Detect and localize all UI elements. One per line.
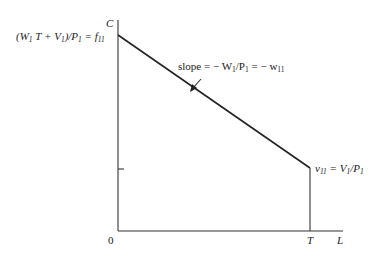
y-axis-label: C	[106, 17, 114, 29]
slope-label: slope = − W1/P1 = − w11	[178, 60, 285, 74]
endpoint-label: v11 = V1/P1	[315, 162, 364, 176]
x-tick-label-T: T	[307, 234, 314, 246]
origin-label: 0	[108, 234, 114, 246]
intercept-label: (W1 T + V1)/P1 = f11	[16, 30, 105, 44]
budget-line	[118, 35, 310, 168]
x-axis-label: L	[336, 234, 343, 246]
budget-diagram: C L 0 T (W1 T + V1)/P1 = f11 slope = − W…	[0, 0, 380, 258]
